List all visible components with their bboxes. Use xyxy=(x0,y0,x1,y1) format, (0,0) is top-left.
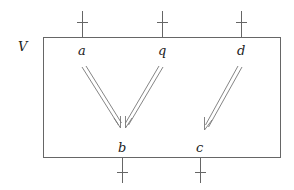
arrow-shaft xyxy=(129,67,164,125)
port-d: d xyxy=(236,11,247,58)
port-a: a xyxy=(77,11,88,58)
diagram-canvas: V a q d b c xyxy=(0,0,294,190)
port-c: c xyxy=(195,140,206,183)
port-label-q: q xyxy=(158,43,166,58)
double-arrow-q-to-b xyxy=(126,66,164,128)
port-b: b xyxy=(117,140,128,183)
arrow-head-icon xyxy=(114,116,121,128)
arrow-shaft xyxy=(82,67,119,125)
box-label: V xyxy=(18,39,29,54)
arrow-shaft xyxy=(209,67,243,127)
arrow-shaft xyxy=(86,66,122,123)
arrow-shaft xyxy=(126,66,160,123)
port-label-c: c xyxy=(196,140,204,155)
port-q: q xyxy=(157,11,168,58)
port-label-a: a xyxy=(78,43,86,58)
port-label-d: d xyxy=(237,43,245,58)
double-arrow-a-to-b xyxy=(82,66,122,128)
arrow-shaft xyxy=(206,66,239,125)
port-label-b: b xyxy=(118,140,126,155)
double-arrow-d-to-c xyxy=(205,66,243,130)
